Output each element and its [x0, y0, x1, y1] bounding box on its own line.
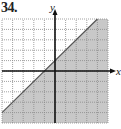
inequality-graph: [0, 0, 121, 129]
y-axis-label: y: [50, 1, 55, 13]
x-axis-label: x: [116, 65, 121, 77]
